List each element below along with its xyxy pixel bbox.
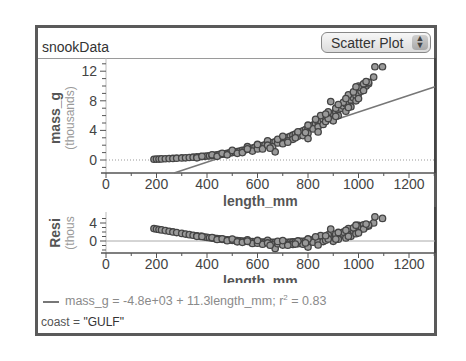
data-point [199, 153, 205, 159]
residual-point [355, 230, 361, 236]
residual-point [343, 227, 349, 233]
x-tick-label: 1200 [393, 176, 424, 192]
x-axis-label: length_mm [223, 193, 298, 209]
data-point [353, 84, 359, 90]
y-axis-label: mass_g [47, 92, 63, 144]
data-point [360, 87, 366, 93]
residual-point [379, 215, 385, 221]
data-point [267, 145, 273, 151]
residual-point [333, 236, 339, 242]
x-tick-label: 0 [102, 176, 110, 192]
data-point [372, 64, 378, 70]
data-point [292, 135, 298, 141]
x-tick-label: 200 [145, 176, 169, 192]
main-scatter-plot: 04812020040060080010001200length_mmmass_… [47, 58, 435, 209]
residual-point [280, 237, 286, 243]
data-point [322, 111, 328, 117]
data-point [315, 129, 321, 135]
y-tick-label: 8 [89, 93, 97, 109]
charts-svg: 04812020040060080010001200length_mmmass_… [0, 0, 466, 361]
residual-point [292, 241, 298, 247]
residual-plot: 04020040060080010001200length_mmResi(tho… [47, 207, 435, 289]
residual-point [328, 226, 334, 232]
x-tick-label: 800 [296, 176, 320, 192]
x-tick-label: 400 [195, 176, 219, 192]
x-axis-label: length_mm [223, 273, 298, 289]
data-point [254, 141, 260, 147]
y-tick-label: 0 [89, 233, 97, 249]
data-point [285, 139, 291, 145]
y-tick-label: 4 [89, 215, 97, 231]
x-tick-label: 1000 [343, 176, 374, 192]
data-point [343, 95, 349, 101]
x-tick-label: 600 [246, 176, 270, 192]
data-point [370, 74, 376, 80]
residual-point [267, 242, 273, 248]
residual-point [302, 240, 308, 246]
y-tick-label: 0 [89, 152, 97, 168]
data-point [333, 113, 339, 119]
x-tick-label: 600 [246, 256, 270, 272]
y-axis-sublabel: (thousands) [63, 86, 77, 149]
residual-point [322, 233, 328, 239]
x-tick-label: 800 [296, 256, 320, 272]
residual-point [353, 222, 359, 228]
data-point [312, 116, 318, 122]
x-tick-label: 1200 [393, 256, 424, 272]
data-point [328, 98, 334, 104]
x-tick-label: 400 [195, 256, 219, 272]
residual-point [254, 237, 260, 243]
data-point [244, 146, 250, 152]
residual-point [335, 229, 341, 235]
residual-point [244, 238, 250, 244]
data-point [363, 78, 369, 84]
x-tick-label: 1000 [343, 256, 374, 272]
residual-point [363, 221, 369, 227]
data-point [335, 101, 341, 107]
x-tick-label: 0 [102, 256, 110, 272]
data-point [280, 133, 286, 139]
y-tick-label: 4 [89, 122, 97, 138]
y-axis-sublabel: (thous [63, 216, 77, 249]
residual-point [315, 242, 321, 248]
data-point [305, 122, 311, 128]
y-axis-label: Resi [47, 218, 63, 248]
data-point [345, 104, 351, 110]
data-point [379, 64, 385, 70]
y-tick-label: 12 [81, 63, 97, 79]
residual-point [199, 233, 205, 239]
residual-point [312, 234, 318, 240]
data-point [355, 95, 361, 101]
data-point [302, 129, 308, 135]
residual-point [372, 214, 378, 220]
x-tick-label: 200 [145, 256, 169, 272]
